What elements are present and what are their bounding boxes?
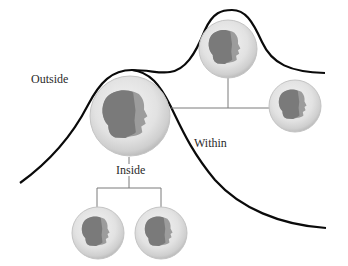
- head-silhouette-icon: [209, 30, 241, 64]
- head-silhouette-icon: [145, 216, 173, 246]
- head-silhouette-icon: [82, 216, 110, 246]
- label-within: Within: [194, 137, 227, 149]
- person-node-bottom-right: [135, 207, 187, 259]
- person-node-right: [269, 80, 321, 132]
- label-outside: Outside: [31, 73, 68, 85]
- person-node-bottom-left: [72, 207, 124, 259]
- label-inside: Inside: [116, 164, 145, 176]
- person-node-top: [199, 20, 257, 78]
- outside-inside-within-diagram: [0, 0, 348, 266]
- person-node-self: [90, 76, 170, 156]
- head-silhouette-icon: [279, 89, 307, 119]
- head-silhouette-icon: [102, 90, 147, 138]
